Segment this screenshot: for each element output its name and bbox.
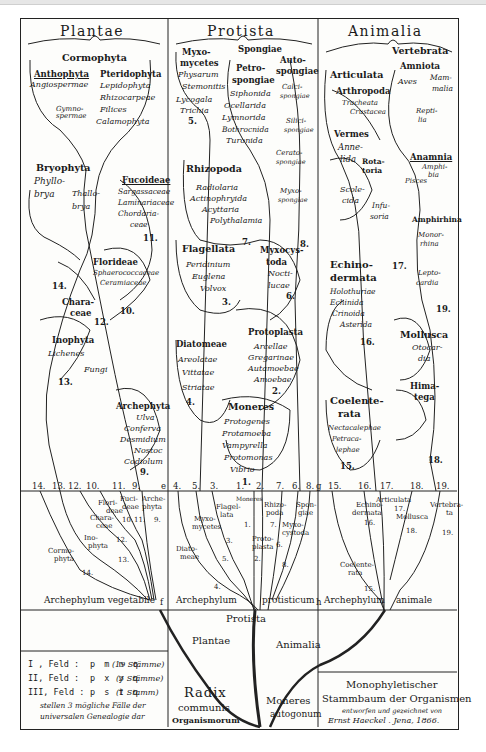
grid-num-15b: 15. <box>364 586 375 593</box>
label-himatega-1: Hima- <box>410 382 439 391</box>
label-coelenterata-1: Coelente- <box>330 396 384 406</box>
label-polythalamia: Polythalamia <box>210 217 262 225</box>
grid-num-17b: 17. <box>394 506 405 513</box>
label-rotatoria-1: Rota- <box>362 158 385 166</box>
label-archephylum-vegetabile: Archephylum vegetabile <box>44 596 155 605</box>
label-rhizopoda: Rhizopoda <box>186 164 242 174</box>
grid-label-coelenterata-2: rata <box>348 570 363 577</box>
label-root-protista: Protista <box>226 614 266 624</box>
grid-letter-h: h <box>316 598 321 607</box>
grid-label-archephyta-2: phyta <box>142 504 162 511</box>
grid-num-11b: 11. <box>134 517 145 524</box>
label-phyllobrya-2: brya <box>34 190 55 199</box>
num-19: 19. <box>436 305 451 314</box>
label-chordariaceae-1: Chordaria- <box>118 210 159 218</box>
label-petrospongiae-1: Petro- <box>236 64 265 73</box>
label-myxomycetes-1: Myxo- <box>182 48 211 57</box>
label-radiolaria: Radiolaria <box>196 184 238 192</box>
label-conferva: Conferva <box>124 425 161 433</box>
label-euglena: Euglena <box>192 273 225 281</box>
label-amoebae: Amoebae <box>254 376 292 384</box>
label-anthophyta: Anthophyta <box>34 70 89 79</box>
num-10: 10. <box>120 307 135 316</box>
label-noctilucae-2: lucae <box>268 282 290 290</box>
num-12: 12. <box>94 318 109 327</box>
label-autamoebae: Autamoebae <box>248 365 299 373</box>
grid-label-rhizopoda-1: Rhizo- <box>264 502 286 509</box>
label-laminariaceae: Laminariaceae <box>118 199 174 207</box>
num-3: 3. <box>222 298 231 307</box>
label-crustacea: Crustacea <box>350 109 386 116</box>
label-echinida: Echinida <box>330 299 363 307</box>
grid-num-13b: 13. <box>118 557 129 564</box>
grid-label-echinodermata-1: Echino- <box>356 502 383 509</box>
label-petracalephae-1: Petraca- <box>332 436 361 443</box>
label-ceratospongiae-1: Cerato- <box>276 150 302 157</box>
grid-num-9b: 9. <box>154 517 161 524</box>
label-reptilia-1: Repti- <box>416 108 437 115</box>
num-4: 4. <box>186 398 195 407</box>
grid-num-15: 15. <box>328 482 342 491</box>
label-calamophyta: Calamophyta <box>96 118 149 126</box>
grid-num-14b: 14. <box>82 570 93 577</box>
label-protamoeba: Protamoeba <box>222 430 271 438</box>
grid-label-flagellata-1: Flagel- <box>216 504 241 511</box>
label-leptocardia-2: cardia <box>416 280 438 287</box>
grid-label-characeae-1: Chara- <box>90 515 114 522</box>
label-articulata: Articulata <box>330 70 383 80</box>
grid-num-18: 18. <box>410 482 424 491</box>
num-6: 6. <box>286 292 295 301</box>
label-spongiae: Spongiae <box>238 45 282 54</box>
label-archephylum-protisticum-2: protisticum <box>262 596 314 605</box>
label-florideae: Florideae <box>93 258 138 267</box>
title-line-4: Ernst Haeckel . Jena, 1866. <box>328 717 439 725</box>
legend-field-1: I , Feld : <box>28 660 79 669</box>
label-otocardia-2: dia <box>418 355 430 363</box>
label-ocellarida: Ocellarida <box>224 102 266 110</box>
grid-label-cormophyta-1: Cormo- <box>48 548 74 555</box>
grid-label-protoplasta-2: plasta <box>252 544 273 551</box>
grid-label-cormophyta-2: phyta <box>54 556 74 563</box>
label-chordariaceae-2: ceae <box>130 221 148 229</box>
grid-num-4: 4. <box>173 482 181 491</box>
label-phyllobrya-1: Phyllo- <box>34 177 65 186</box>
label-calcispongiae-2: spongiae <box>280 93 310 100</box>
label-peridinium: Peridinium <box>186 261 230 269</box>
grid-num-3b: 3. <box>226 538 233 545</box>
grid-label-coelenterata-1: Coelente- <box>340 562 374 569</box>
label-volvox: Volvox <box>200 285 226 293</box>
label-echinodermata-2: dermata <box>330 273 377 283</box>
grid-num-2b: 2. <box>254 556 261 563</box>
label-crinoida: Crinoida <box>332 310 365 318</box>
grid-letter-g: g <box>316 482 321 491</box>
grid-num-6: 6. <box>292 482 300 491</box>
grid-label-echinodermata-2: dermata <box>352 510 382 517</box>
label-lymnorida: Lymnorida <box>222 114 266 122</box>
grid-num-16b: 16. <box>364 520 375 527</box>
grid-num-9: 9. <box>132 482 140 491</box>
label-desmidium: Desmidium <box>120 436 166 444</box>
num-13: 13. <box>58 378 73 387</box>
label-pteridophyta: Pteridophyta <box>100 70 162 79</box>
label-thallobrya-2: brya <box>72 203 90 211</box>
label-silicispongiae-2: spongiae <box>284 127 314 134</box>
num-9: 9. <box>140 468 149 477</box>
grid-num-12: 12. <box>68 482 82 491</box>
label-archephyta: Archephyta <box>116 402 170 411</box>
num-18: 18. <box>428 456 443 465</box>
label-moneres-root: Moneres <box>266 696 310 706</box>
label-gymnospermae-2: spermae <box>56 113 87 120</box>
label-lepidophyta: Lepidophyta <box>100 82 150 90</box>
label-ceratospongiae-2: spongiae <box>276 159 306 166</box>
title-line-2: Stammbaum der Organismen <box>322 694 472 704</box>
label-holothuriae: Holothuriae <box>330 288 376 296</box>
grid-label-archephyta-1: Arche- <box>142 496 165 503</box>
label-sphaerococcaceae: Sphaerococcaceae <box>93 270 159 277</box>
label-angiospermae: Angiospermae <box>30 81 88 89</box>
label-anamnia: Anamnia <box>410 153 452 162</box>
label-calcispongiae-1: Calci- <box>282 84 302 91</box>
legend-caption-1: stellen 3 mögliche Fälle der <box>40 702 146 710</box>
num-15: 15. <box>340 462 355 471</box>
label-striatae: Striatae <box>182 384 215 392</box>
label-cormophyta: Cormophyta <box>62 53 127 63</box>
